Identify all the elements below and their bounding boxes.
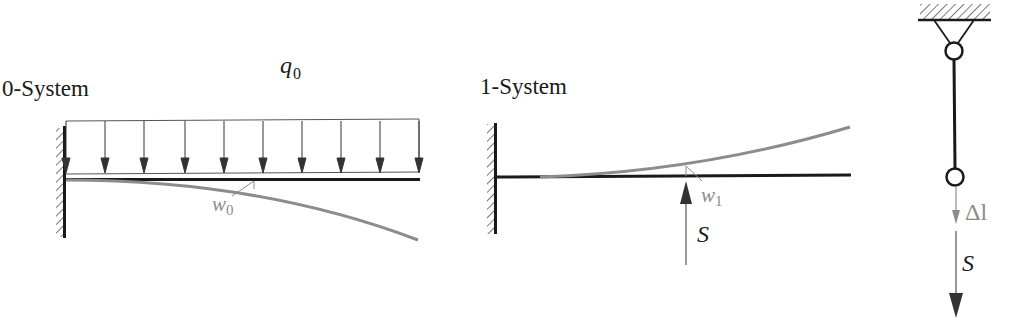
- zero-system-panel: 0-System q0: [2, 52, 423, 240]
- distributed-load-icon: [62, 119, 423, 174]
- force-label-s: S: [697, 221, 709, 247]
- structural-diagram: 0-System q0: [0, 0, 1031, 331]
- rod-panel: Δl S: [918, 4, 991, 318]
- force-arrow-up-icon: [680, 181, 692, 265]
- deflection-label-w1: w1: [701, 183, 723, 209]
- load-label-q: q0: [280, 52, 301, 82]
- force-arrow-down-icon: [949, 231, 963, 318]
- one-system-title: 1-System: [480, 74, 567, 99]
- one-system-panel: 1-System w1 S: [480, 74, 851, 265]
- elongation-label: Δl: [965, 199, 987, 225]
- zero-system-title: 0-System: [2, 76, 89, 101]
- fixed-support-icon: [56, 126, 65, 238]
- deflection-label-w0: w0: [212, 192, 234, 218]
- deflection-curve-w1: [540, 127, 850, 177]
- rod: [954, 60, 955, 168]
- elongation-arrow-icon: [952, 186, 960, 224]
- hinge-icon: [947, 169, 964, 186]
- pin-support-icon: [918, 4, 991, 60]
- fixed-support-icon: [487, 123, 496, 234]
- rod-force-label-s: S: [962, 250, 974, 276]
